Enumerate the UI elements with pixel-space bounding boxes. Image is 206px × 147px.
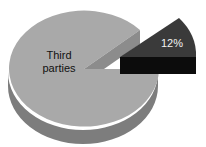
third-parties-label: Third parties xyxy=(34,49,84,75)
twelve-percent-slice-side xyxy=(120,57,196,74)
pie-chart xyxy=(0,0,206,147)
twelve-percent-label: 12% xyxy=(158,37,186,50)
third-parties-label-line2: parties xyxy=(34,62,84,75)
third-parties-label-line1: Third xyxy=(34,49,84,62)
